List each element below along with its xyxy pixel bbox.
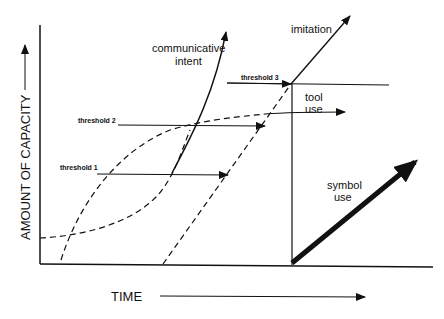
communicative-intent-label-line1: communicative xyxy=(152,42,225,54)
tool-use-label-line1: tool xyxy=(305,91,323,103)
capacity-over-time-diagram: AMOUNT OF CAPACITY TIME communicative in… xyxy=(0,0,444,319)
threshold-3-label: threshold 3 xyxy=(241,74,279,81)
threshold-1-label: threshold 1 xyxy=(60,164,98,171)
tool-use-dashed-curve xyxy=(61,114,265,260)
communicative-intent-dashed-curve xyxy=(40,130,190,238)
imitation-label: imitation xyxy=(291,23,332,35)
imitation-dashed-line xyxy=(163,84,291,264)
x-axis xyxy=(40,264,433,267)
threshold-1-arrow xyxy=(97,174,228,175)
tool-use-label-line2: use xyxy=(305,103,323,115)
threshold-2-arrow xyxy=(118,125,265,126)
symbol-use-arrow xyxy=(292,162,415,263)
threshold-2-label: threshold 2 xyxy=(78,117,116,124)
communicative-intent-label-line2: intent xyxy=(175,55,202,67)
x-axis-label: TIME xyxy=(111,289,142,304)
symbol-use-label-line1: symbol xyxy=(327,179,362,191)
y-axis-label: AMOUNT OF CAPACITY xyxy=(18,94,33,240)
symbol-use-label-line2: use xyxy=(334,191,352,203)
x-axis-label-arrow xyxy=(160,296,365,297)
